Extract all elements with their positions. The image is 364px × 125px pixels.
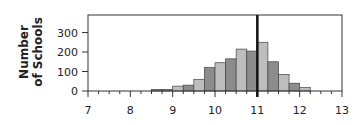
y-axis: 0100200300 — [57, 27, 88, 98]
y-axis-label-line1: Number — [17, 25, 31, 79]
histogram-bar — [300, 87, 311, 91]
y-tick-label: 300 — [57, 27, 78, 40]
x-tick-label: 13 — [335, 104, 349, 117]
histogram-bars — [152, 42, 311, 91]
y-tick-label: 200 — [57, 46, 78, 59]
y-axis-label-line2: of Schools — [31, 17, 45, 87]
x-tick-label: 12 — [293, 104, 307, 117]
y-axis-label: Number of Schools — [17, 17, 45, 87]
histogram-bar — [257, 42, 268, 91]
histogram-bar — [183, 85, 194, 91]
histogram-bar — [236, 49, 247, 91]
histogram-bar — [194, 79, 205, 91]
histogram-bar — [247, 51, 258, 91]
y-tick-label: 100 — [57, 66, 78, 79]
histogram-bar — [279, 74, 290, 91]
histogram-bar — [173, 86, 184, 91]
histogram-bar — [215, 63, 226, 91]
histogram-bar — [204, 68, 215, 91]
histogram-bar — [226, 59, 237, 91]
x-tick-label: 7 — [85, 104, 92, 117]
x-tick-label: 8 — [127, 104, 134, 117]
histogram-bar — [268, 62, 279, 91]
y-tick-label: 0 — [71, 85, 78, 98]
x-tick-label: 9 — [169, 104, 176, 117]
x-axis: 78910111213 — [85, 91, 350, 117]
histogram-chart: Number of Schools 0100200300 78910111213 — [0, 0, 364, 125]
x-tick-label: 10 — [208, 104, 222, 117]
histogram-bar — [289, 83, 300, 91]
x-tick-label: 11 — [250, 104, 264, 117]
